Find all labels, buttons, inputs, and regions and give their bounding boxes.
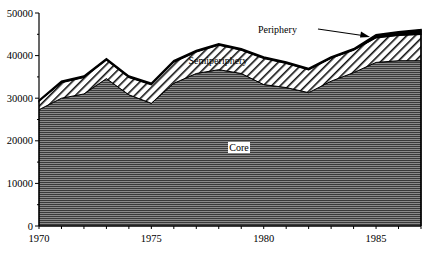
- arrowhead-icon: [360, 32, 370, 38]
- y-tick-label: 30000: [7, 93, 33, 104]
- x-tick-label: 1975: [141, 233, 162, 244]
- periphery-label: Periphery: [258, 24, 297, 35]
- stacked-area-chart: 0100002000030000400005000019701975198019…: [0, 0, 431, 254]
- x-tick-label: 1970: [29, 233, 50, 244]
- y-tick-label: 50000: [7, 8, 33, 19]
- y-tick-label: 40000: [7, 50, 33, 61]
- semiperiphery-label: Semiperiphery: [189, 55, 248, 66]
- x-tick-label: 1985: [366, 233, 387, 244]
- x-tick-label: 1980: [253, 233, 274, 244]
- core-label: Core: [229, 142, 249, 153]
- periphery-arrow: [318, 29, 366, 36]
- y-tick-label: 0: [28, 221, 33, 232]
- y-tick-label: 20000: [7, 135, 33, 146]
- y-tick-label: 10000: [7, 178, 33, 189]
